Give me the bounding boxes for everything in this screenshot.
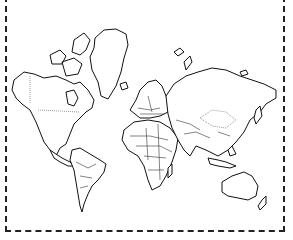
svalbard — [174, 48, 184, 56]
africa — [122, 120, 178, 190]
iceland — [120, 82, 128, 90]
europe — [130, 80, 172, 118]
australia — [222, 172, 258, 200]
siberian-islands — [240, 70, 248, 76]
south-america — [70, 148, 106, 212]
new-zealand — [258, 196, 266, 210]
world-map — [0, 0, 293, 240]
novaya-zemlya — [184, 56, 192, 70]
arctic-islands — [50, 33, 90, 76]
north-america — [12, 72, 94, 156]
